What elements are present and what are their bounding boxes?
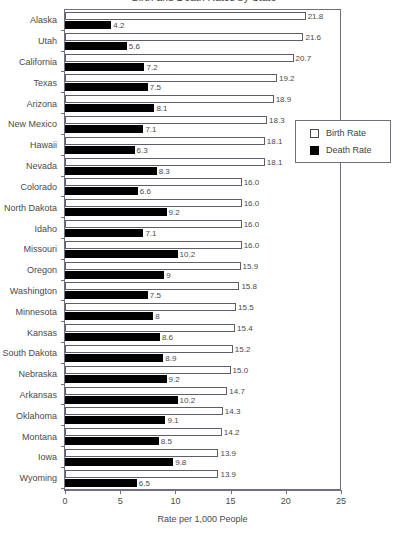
death-rate-bar: 8.6: [65, 333, 160, 341]
chart-row: Washington15.87.5: [65, 281, 341, 302]
death-rate-bar: 9.2: [65, 375, 167, 383]
category-label-wyoming: Wyoming: [20, 473, 57, 483]
birth-rate-value: 15.9: [243, 261, 259, 270]
chart-row: Alaska21.84.2: [65, 10, 341, 31]
birth-rate-swatch-icon: [310, 129, 319, 138]
category-label-arkansas: Arkansas: [19, 390, 57, 400]
birth-rate-bar: 18.9: [65, 95, 274, 103]
category-label-south-dakota: South Dakota: [2, 348, 57, 358]
death-rate-value: 8.1: [156, 104, 167, 113]
death-rate-value: 7.1: [145, 229, 156, 238]
x-axis-tick: [231, 490, 232, 494]
chart-title: Birth and Death Rates by State: [0, 0, 408, 3]
birth-rate-bar: 19.2: [65, 74, 277, 82]
x-axis-tick-label: 15: [226, 496, 236, 506]
category-label-montana: Montana: [22, 432, 57, 442]
birth-rate-bar: 14.3: [65, 407, 223, 415]
death-rate-bar: 6.3: [65, 146, 135, 154]
death-rate-value: 6.6: [140, 187, 151, 196]
y-axis-tick: [61, 488, 65, 489]
chart-row: Arizona18.98.1: [65, 93, 341, 114]
birth-rate-value: 16.0: [244, 240, 260, 249]
birth-rate-value: 16.0: [244, 178, 260, 187]
legend-label-birth-rate: Birth Rate: [326, 128, 366, 138]
death-rate-value: 7.5: [150, 83, 161, 92]
death-rate-bar: 5.6: [65, 42, 127, 50]
death-rate-swatch-icon: [310, 146, 319, 155]
birth-rate-bar: 13.9: [65, 470, 218, 478]
birth-rate-bar: 15.9: [65, 262, 241, 270]
death-rate-bar: 6.5: [65, 479, 137, 487]
chart-row: Utah21.65.6: [65, 31, 341, 52]
birth-rate-value: 16.0: [244, 220, 260, 229]
birth-rate-bar: 16.0: [65, 199, 242, 207]
chart-row: Oklahoma14.39.1: [65, 405, 341, 426]
birth-death-rate-chart: Birth and Death Rates by State Alaska21.…: [0, 0, 408, 538]
death-rate-value: 8.5: [161, 437, 172, 446]
x-axis-tick: [286, 490, 287, 494]
x-axis-tick-label: 10: [170, 496, 180, 506]
death-rate-value: 6.3: [137, 145, 148, 154]
death-rate-bar: 8.5: [65, 437, 159, 445]
legend-item-birth-rate: Birth Rate: [310, 128, 366, 138]
death-rate-value: 9.2: [169, 208, 180, 217]
legend-label-death-rate: Death Rate: [326, 145, 372, 155]
death-rate-bar: 6.6: [65, 187, 138, 195]
death-rate-value: 10.2: [180, 249, 196, 258]
birth-rate-value: 14.7: [229, 386, 245, 395]
death-rate-bar: 9.8: [65, 458, 173, 466]
chart-row: Montana14.28.5: [65, 426, 341, 447]
x-axis-tick: [175, 490, 176, 494]
death-rate-bar: 8.1: [65, 104, 154, 112]
death-rate-value: 7.2: [146, 62, 157, 71]
category-label-california: California: [19, 57, 57, 67]
birth-rate-value: 13.9: [220, 448, 236, 457]
birth-rate-value: 16.0: [244, 199, 260, 208]
birth-rate-value: 21.8: [308, 11, 324, 20]
death-rate-value: 8.6: [162, 333, 173, 342]
chart-row: Minnesota15.58: [65, 301, 341, 322]
birth-rate-bar: 15.2: [65, 345, 233, 353]
category-label-texas: Texas: [33, 78, 57, 88]
chart-row: Idaho16.07.1: [65, 218, 341, 239]
birth-rate-value: 18.1: [267, 136, 283, 145]
category-label-utah: Utah: [38, 36, 57, 46]
birth-rate-bar: 18.1: [65, 137, 265, 145]
death-rate-bar: 8: [65, 312, 153, 320]
death-rate-bar: 4.2: [65, 21, 111, 29]
category-label-iowa: Iowa: [38, 452, 57, 462]
x-axis-tick-label: 25: [336, 496, 346, 506]
birth-rate-value: 19.2: [279, 74, 295, 83]
birth-rate-bar: 16.0: [65, 220, 242, 228]
death-rate-bar: 7.1: [65, 229, 143, 237]
death-rate-value: 7.1: [145, 124, 156, 133]
death-rate-bar: 9.1: [65, 416, 165, 424]
death-rate-bar: 10.2: [65, 250, 178, 258]
death-rate-bar: 7.1: [65, 125, 143, 133]
category-label-kansas: Kansas: [27, 328, 57, 338]
category-label-minnesota: Minnesota: [15, 307, 57, 317]
death-rate-value: 8.3: [159, 166, 170, 175]
birth-rate-value: 18.3: [269, 115, 285, 124]
category-label-oklahoma: Oklahoma: [16, 411, 57, 421]
death-rate-value: 8.9: [165, 353, 176, 362]
death-rate-bar: 7.5: [65, 83, 148, 91]
chart-row: North Dakota16.09.2: [65, 197, 341, 218]
birth-rate-bar: 16.0: [65, 178, 242, 186]
chart-row: Missouri16.010.2: [65, 239, 341, 260]
death-rate-value: 9: [166, 270, 170, 279]
birth-rate-value: 15.8: [241, 282, 257, 291]
death-rate-value: 8: [155, 312, 159, 321]
birth-rate-bar: 14.2: [65, 428, 222, 436]
birth-rate-bar: 15.0: [65, 366, 231, 374]
birth-rate-value: 15.0: [233, 365, 249, 374]
category-label-idaho: Idaho: [34, 224, 57, 234]
x-axis-tick-label: 20: [281, 496, 291, 506]
birth-rate-value: 15.5: [238, 303, 254, 312]
death-rate-value: 10.2: [180, 395, 196, 404]
birth-rate-bar: 13.9: [65, 449, 218, 457]
birth-rate-value: 15.4: [237, 324, 253, 333]
chart-row: South Dakota15.28.9: [65, 343, 341, 364]
category-label-north-dakota: North Dakota: [4, 203, 57, 213]
x-axis-tick: [65, 490, 66, 494]
